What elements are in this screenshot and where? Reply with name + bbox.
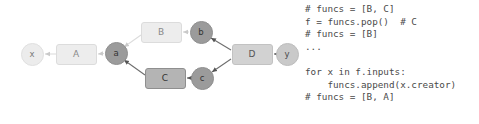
graph-node-A-label: A [73,50,79,59]
graph-node-A[interactable]: A [56,44,97,65]
code-block: # funcs = [B, C]f = funcs.pop() # C# fun… [305,3,479,104]
code-line: # funcs = [B, A] [305,91,479,104]
code-line: ... [305,41,479,54]
code-line: f = funcs.pop() # C [305,16,479,29]
edge-D-to-c [212,59,231,72]
computational-graph: x A a B b C c D y [0,0,300,124]
code-line: for x in f.inputs: [305,66,479,79]
code-line: # funcs = [B] [305,28,479,41]
code-annotation-panel: # funcs = [B, C]f = funcs.pop() # C# fun… [305,3,479,121]
edge-a-to-A [98,54,104,55]
code-line: funcs.append(x.creator) [305,79,479,92]
graph-node-b-label: b [198,28,203,37]
edge-B-to-a [124,35,141,47]
graph-node-B-label: B [158,28,164,37]
graph-node-C-label: C [162,74,168,83]
graph-node-D[interactable]: D [232,44,273,65]
graph-node-x[interactable]: x [21,43,44,66]
graph-node-y-label: y [284,50,289,59]
graph-node-y[interactable]: y [276,43,299,66]
graph-node-B[interactable]: B [141,22,182,43]
graph-node-C[interactable]: C [145,68,186,89]
graph-node-a-label: a [113,49,118,58]
graph-node-D-label: D [249,50,256,59]
backprop-figure: x A a B b C c D y [0,0,479,124]
graph-node-c-label: c [200,74,205,83]
graph-node-b[interactable]: b [190,21,213,44]
graph-node-c[interactable]: c [191,67,214,90]
code-line [305,53,479,66]
edge-C-to-a [124,60,145,75]
graph-node-a[interactable]: a [105,42,128,65]
code-line: # funcs = [B, C] [305,3,479,16]
edge-D-to-b [211,38,231,50]
graph-node-x-label: x [29,50,34,59]
